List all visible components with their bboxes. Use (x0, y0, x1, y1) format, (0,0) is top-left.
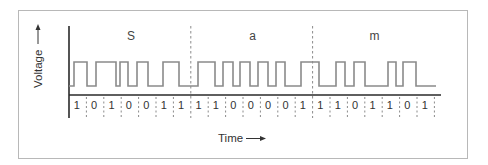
bit-label: 0 (126, 99, 132, 111)
bit-label: 0 (230, 99, 236, 111)
bit-label: 1 (213, 99, 219, 111)
bit-label: 1 (178, 99, 184, 111)
bit-label: 1 (317, 99, 323, 111)
x-axis-label: Time (218, 132, 243, 144)
waveform-diagram: Voltage Sam 101001111000011101101 Time (0, 0, 488, 165)
bit-label: 1 (369, 99, 375, 111)
bit-label: 0 (248, 99, 254, 111)
bit-label: 1 (335, 99, 341, 111)
y-axis-label: Voltage (32, 50, 44, 88)
bit-label: 1 (387, 99, 393, 111)
bit-label: 1 (161, 99, 167, 111)
character-label: a (249, 29, 256, 43)
bit-labels: 101001111000011101101 (74, 99, 428, 111)
bit-label: 1 (300, 99, 306, 111)
bit-label: 0 (265, 99, 271, 111)
bit-label: 0 (352, 99, 358, 111)
character-label: S (127, 29, 135, 43)
bit-label: 0 (143, 99, 149, 111)
bit-label: 1 (422, 99, 428, 111)
bit-label: 1 (74, 99, 80, 111)
character-label: m (370, 29, 380, 43)
bit-label: 1 (108, 99, 114, 111)
bit-label: 0 (282, 99, 288, 111)
bit-label: 0 (91, 99, 97, 111)
bit-label: 1 (195, 99, 201, 111)
bit-label: 0 (404, 99, 410, 111)
